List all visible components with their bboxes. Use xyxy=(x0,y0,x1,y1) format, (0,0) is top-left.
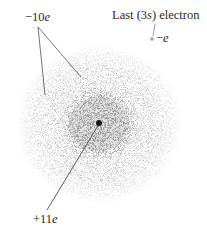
electron-cloud-graphic xyxy=(0,0,207,247)
valence-electron-charge: −e xyxy=(156,32,169,45)
inner-electrons-label: −10e xyxy=(25,11,50,24)
last-electron-title: Last (3s) electron xyxy=(112,9,199,22)
valence-electron-dot xyxy=(150,37,154,41)
sodium-atom-diagram: −10e Last (3s) electron −e +11e xyxy=(0,0,207,247)
nucleus-dot xyxy=(96,120,102,126)
valence-electron-leader xyxy=(153,24,155,36)
nucleus-charge-label: +11e xyxy=(33,213,58,226)
